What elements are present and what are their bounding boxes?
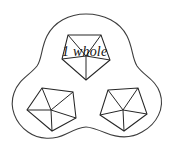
figure-canvas [0, 0, 174, 164]
whole-label: 1 whole [62, 45, 107, 59]
fraction-figure: 1 whole [0, 0, 174, 164]
